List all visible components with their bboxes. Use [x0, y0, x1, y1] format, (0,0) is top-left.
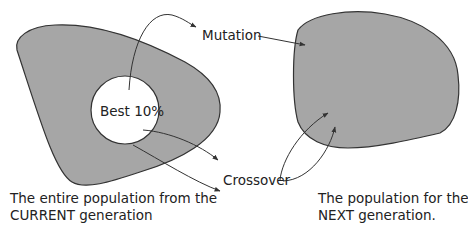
current-caption-line2: CURRENT generation: [10, 207, 153, 224]
ga-diagram: Best 10% Mutation Crossover The entire p…: [0, 0, 468, 234]
current-caption-line1: The entire population from the: [10, 190, 217, 207]
next-caption-line1: The population for the: [318, 190, 468, 207]
next-population-shape: [294, 12, 459, 148]
crossover-label: Crossover: [223, 172, 290, 189]
next-caption-line2: NEXT generation.: [318, 207, 436, 224]
best-10-percent-label: Best 10%: [100, 103, 164, 120]
mutation-label: Mutation: [202, 27, 262, 44]
